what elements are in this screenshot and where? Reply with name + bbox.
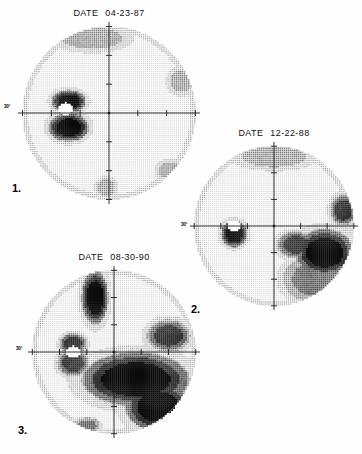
visual-field-panel-1: DATE04-23-87 30° (18, 8, 200, 198)
panel-2-axis-degree-label: 30° (181, 222, 187, 227)
panel-1-plot (18, 22, 200, 204)
panel-3-index-label: 3. (18, 424, 27, 436)
panel-2-date-header: DATE12-22-88 (190, 128, 358, 138)
panel-3-date-value: 08-30-90 (110, 252, 149, 262)
visual-field-panel-3: DATE08-30-90 30° (28, 252, 200, 432)
visual-field-panel-2: DATE12-22-88 30° (190, 128, 358, 304)
panel-1-date-label: DATE (73, 8, 98, 18)
panel-1-axis-degree-label: 30° (4, 104, 10, 109)
panel-1-index-label: 1. (12, 182, 21, 194)
panel-2-date-label: DATE (238, 128, 263, 138)
panel-3-date-header: DATE08-30-90 (28, 252, 200, 262)
panel-3-date-label: DATE (78, 252, 103, 262)
visual-field-series-figure: DATE04-23-87 30° 1. DATE12-22-88 30° 2. … (0, 0, 362, 454)
panel-1-date-value: 04-23-87 (105, 8, 144, 18)
panel-3-axis-degree-label: 30° (16, 346, 22, 351)
panel-3-plot (28, 266, 200, 438)
panel-1-date-header: DATE04-23-87 (18, 8, 200, 18)
panel-2-plot (190, 142, 358, 310)
panel-2-date-value: 12-22-88 (270, 128, 309, 138)
